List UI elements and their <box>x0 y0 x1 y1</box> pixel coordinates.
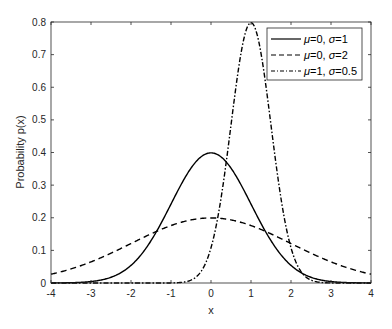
y-tick-label: 0.1 <box>32 245 46 256</box>
x-tick-label: 3 <box>328 288 334 299</box>
legend-entry-0: μ=0, σ=1 <box>303 33 348 45</box>
y-tick-label: 0.3 <box>32 180 46 191</box>
x-tick-label: 4 <box>368 288 374 299</box>
x-axis-label: x <box>208 304 214 316</box>
legend-entry-2: μ=1, σ=0.5 <box>303 65 357 77</box>
y-tick-label: 0 <box>40 278 46 289</box>
y-tick-label: 0.7 <box>32 49 46 60</box>
x-tick-label: 0 <box>208 288 214 299</box>
x-tick-label: 2 <box>288 288 294 299</box>
legend: μ=0, σ=1 μ=0, σ=2 μ=1, σ=0.5 <box>267 28 362 80</box>
y-tick-label: 0.6 <box>32 82 46 93</box>
x-tick-label: -4 <box>47 288 56 299</box>
y-tick-label: 0.2 <box>32 212 46 223</box>
chart: -4-3-2-10123400.10.20.30.40.50.60.70.8 x… <box>0 0 392 329</box>
y-tick-label: 0.5 <box>32 114 46 125</box>
y-axis-label: Probability p(x) <box>14 115 26 188</box>
x-tick-label: -3 <box>87 288 96 299</box>
y-tick-label: 0.4 <box>32 147 46 158</box>
x-tick-label: -1 <box>167 288 176 299</box>
y-tick-label: 0.8 <box>32 17 46 28</box>
x-tick-label: 1 <box>248 288 254 299</box>
x-tick-label: -2 <box>127 288 136 299</box>
legend-entry-1: μ=0, σ=2 <box>303 49 348 61</box>
